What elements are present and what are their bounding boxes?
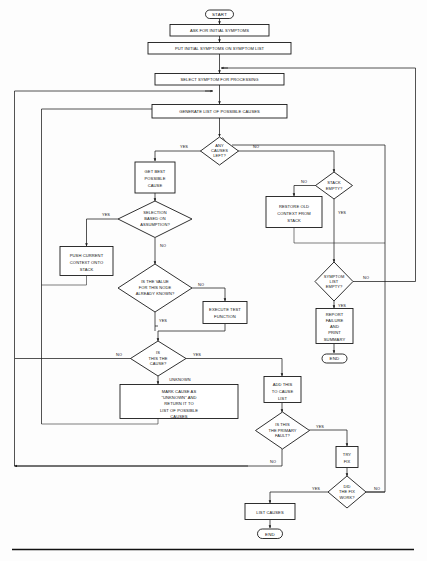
node-end-success: END <box>258 529 283 539</box>
rightrail-outer <box>224 68 416 282</box>
node-executetest-line-1: FUNCTION <box>214 314 236 319</box>
node-valueknown-line-0: IS THE VALUE <box>141 279 169 284</box>
edge-label-symptomempty-yes: YES <box>338 303 346 308</box>
node-selection-line-2: ASSUMPTION? <box>140 222 170 227</box>
node-stackempty-line-1: EMPTY? <box>326 186 343 191</box>
node-report-line-0: REPORT <box>326 312 344 317</box>
edge-pushcontext-to-leftrail <box>42 276 87 285</box>
flowchart-canvas: START ASK FOR INITIAL SYMPTOMS PUT INITI… <box>0 0 427 561</box>
node-ask-symptoms: ASK FOR INITIAL SYMPTOMS <box>170 25 269 37</box>
edge-iscause-yes <box>186 359 282 377</box>
edge-label-iscause-yes: YES <box>193 352 201 357</box>
node-mark-line-3: LIST OF POSSIBLE <box>160 408 198 413</box>
node-addcause-line-0: ADD THIS <box>273 382 293 387</box>
edge-label-primary-no: NO <box>270 459 276 464</box>
node-select-symptom: SELECT SYMPTOM FOR PROCESSING <box>155 74 284 86</box>
node-symptomempty-line-1: LIST <box>330 279 339 284</box>
node-start: START <box>206 10 234 19</box>
node-stack-empty: STACK EMPTY? <box>316 172 353 199</box>
node-did-fix-work: DID THE FIX WORK? <box>328 476 366 508</box>
node-any-causes-line-2: LEFT? <box>213 153 226 158</box>
node-didwork-line-1: THE FIX <box>339 489 355 494</box>
node-report-line-4: SUMMARY <box>324 337 346 342</box>
edge-label-stackempty-yes: YES <box>338 210 346 215</box>
node-get-best-cause: GET BEST POSSIBLE CAUSE <box>135 162 175 193</box>
edge-label-iscause-unknown: UNKNOWN <box>169 377 190 382</box>
edge-label-anycauses-yes: YES <box>180 144 188 149</box>
edge-label-symptomempty-no: NO <box>363 275 369 280</box>
edge-label-stackempty-no: NO <box>301 179 307 184</box>
edge-restore-to-rightrail <box>294 228 385 243</box>
node-primary-line-0: IS THIS <box>275 422 290 427</box>
edge-label-anycauses-no: NO <box>253 144 259 149</box>
edge-label-iscause-no: NO <box>116 352 122 357</box>
node-push-line-1: CONTEXT ONTO <box>70 260 103 265</box>
node-restore-line-0: RESTORE OLD <box>279 204 309 209</box>
node-end-failure-label: END <box>329 356 339 361</box>
node-symptomempty-line-2: EMPTY? <box>326 284 343 289</box>
edge-label-didwork-yes: YES <box>312 486 320 491</box>
node-mark-line-2: RETURN IT TO <box>164 401 193 406</box>
node-push-context: PUSH CURRENT CONTEXT ONTO STACK <box>60 247 113 276</box>
node-iscause-line-1: THIS THE <box>149 356 168 361</box>
node-mark-line-0: MARK CAUSE AS <box>162 389 197 394</box>
edge-label-primary-yes: YES <box>316 424 324 429</box>
node-add-to-cause-list: ADD THIS TO CAUSE LIST <box>264 377 301 403</box>
node-symptomempty-line-0: SYMPTOM <box>324 274 345 279</box>
edge-selection-yes <box>87 219 119 246</box>
node-generate-causes-label: GENERATE LIST OF POSSIBLE CAUSES <box>179 109 260 114</box>
edge-primary-yes <box>309 430 347 446</box>
node-mark-line-4: CAUSES <box>170 414 188 419</box>
node-selection-assumption: SELECTION BASED ON ASSUMPTION? <box>118 201 192 238</box>
node-report-line-2: AND <box>330 324 339 329</box>
node-iscause-line-2: CAUSE? <box>150 361 167 366</box>
edge-label-selection-yes: YES <box>102 212 110 217</box>
node-valueknown-line-2: ALREADY KNOWN? <box>136 291 175 296</box>
node-didwork-line-0: DID <box>343 484 350 489</box>
node-select-symptom-label: SELECT SYMPTOM FOR PROCESSING <box>180 77 258 82</box>
node-generate-causes: GENERATE LIST OF POSSIBLE CAUSES <box>152 105 287 119</box>
node-tryfix-line-0: TRY <box>343 452 352 457</box>
edge-label-valueknown-yes: YES <box>159 318 167 323</box>
node-restore-context: RESTORE OLD CONTEXT FROM STACK <box>266 197 322 228</box>
node-is-primary-fault: IS THIS THE PRIMARY FAULT? <box>256 412 310 449</box>
node-end-success-label: END <box>265 532 275 537</box>
node-push-line-0: PUSH CURRENT <box>70 253 104 258</box>
flowchart-diagram: START ASK FOR INITIAL SYMPTOMS PUT INITI… <box>0 0 427 561</box>
node-restore-line-2: STACK <box>287 218 301 223</box>
node-is-this-cause: IS THIS THE CAUSE? <box>131 341 187 376</box>
node-executetest-line-0: EXECUTE TEST <box>209 307 241 312</box>
edge-executetest-join <box>158 324 225 341</box>
node-mark-unknown: MARK CAUSE AS "UNKNOWN" AND RETURN IT TO… <box>120 385 238 420</box>
edge-stackempty-no <box>294 186 316 197</box>
node-execute-test: EXECUTE TEST FUNCTION <box>203 302 247 324</box>
node-valueknown-line-1: FOR THIS NODE <box>139 285 172 290</box>
node-get-best-line-1: POSSIBLE <box>145 176 166 181</box>
node-restore-line-1: CONTEXT FROM <box>277 211 311 216</box>
node-primary-line-1: THE PRIMARY <box>268 428 296 433</box>
node-mark-line-1: "UNKNOWN" AND <box>161 395 196 400</box>
edge-label-didwork-no: NO <box>374 486 380 491</box>
edge-anycauses-yes <box>155 151 201 161</box>
node-end-failure: END <box>322 354 347 363</box>
node-push-line-2: STACK <box>80 267 94 272</box>
node-report-failure: REPORT FAILURE AND PRINT SUMMARY <box>316 309 353 344</box>
node-selection-line-0: SELECTION <box>143 210 166 215</box>
node-get-best-line-2: CAUSE <box>148 183 163 188</box>
node-stackempty-line-0: STACK <box>327 180 341 185</box>
node-put-symptoms: PUT INITIAL SYMPTOMS ON SYMPTOM LIST <box>148 43 291 55</box>
node-selection-line-1: BASED ON <box>144 216 165 221</box>
edge-valueknown-no <box>192 288 225 301</box>
node-report-line-1: FAILURE <box>326 318 344 323</box>
node-any-causes-left: ANY CAUSES LEFT? <box>201 137 239 165</box>
node-addcause-line-1: TO CAUSE <box>272 389 294 394</box>
node-get-best-line-0: GET BEST <box>145 169 166 174</box>
node-start-label: START <box>212 12 227 17</box>
node-tryfix-line-1: FIX <box>344 459 351 464</box>
node-listcauses-label: LIST CAUSES <box>256 510 284 515</box>
node-didwork-line-2: WORK? <box>339 495 355 500</box>
node-list-causes: LIST CAUSES <box>245 504 295 520</box>
node-value-known: IS THE VALUE FOR THIS NODE ALREADY KNOWN… <box>118 264 192 312</box>
node-try-fix: TRY FIX <box>336 447 358 468</box>
node-primary-line-2: FAULT? <box>275 433 291 438</box>
